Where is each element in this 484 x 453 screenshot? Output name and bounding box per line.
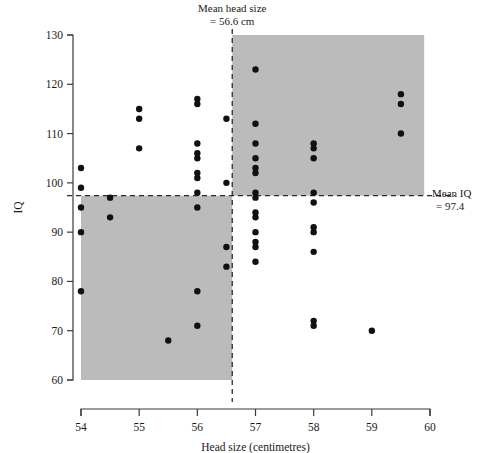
data-point bbox=[398, 130, 404, 136]
data-point bbox=[252, 66, 258, 72]
data-point bbox=[252, 121, 258, 127]
data-point bbox=[78, 165, 84, 171]
upper-right-quadrant bbox=[232, 35, 424, 196]
data-point bbox=[310, 155, 316, 161]
data-point bbox=[310, 229, 316, 235]
data-point bbox=[310, 323, 316, 329]
x-tick-label: 57 bbox=[250, 421, 262, 433]
data-point bbox=[369, 328, 375, 334]
mean-head-size-line1: Mean head size bbox=[198, 2, 267, 14]
data-point bbox=[223, 116, 229, 122]
data-point bbox=[310, 199, 316, 205]
y-tick-label: 130 bbox=[46, 29, 64, 41]
data-point bbox=[136, 106, 142, 112]
data-point bbox=[78, 229, 84, 235]
y-tick-label: 70 bbox=[52, 325, 64, 337]
data-point bbox=[194, 288, 200, 294]
data-point bbox=[136, 116, 142, 122]
data-point bbox=[223, 180, 229, 186]
data-point bbox=[398, 91, 404, 97]
y-tick-label: 60 bbox=[52, 374, 64, 386]
mean-iq-label: Mean IQ= 97.4 bbox=[432, 187, 471, 212]
data-point bbox=[223, 244, 229, 250]
data-point bbox=[194, 190, 200, 196]
y-tick-label: 100 bbox=[46, 177, 64, 189]
data-point bbox=[107, 194, 113, 200]
data-point bbox=[252, 214, 258, 220]
data-point bbox=[252, 244, 258, 250]
data-point bbox=[107, 214, 113, 220]
data-point bbox=[310, 145, 316, 151]
y-tick-label: 90 bbox=[52, 226, 64, 238]
data-point bbox=[252, 259, 258, 265]
data-point bbox=[252, 140, 258, 146]
data-point bbox=[398, 101, 404, 107]
x-tick-label: 60 bbox=[424, 421, 436, 433]
x-tick-label: 55 bbox=[133, 421, 145, 433]
data-point bbox=[252, 229, 258, 235]
mean-iq-line1: Mean IQ bbox=[432, 187, 471, 199]
data-point bbox=[252, 194, 258, 200]
data-point bbox=[194, 323, 200, 329]
mean-head-size-line2: = 56.6 cm bbox=[210, 15, 255, 27]
data-point bbox=[78, 204, 84, 210]
data-point bbox=[223, 263, 229, 269]
data-point bbox=[78, 288, 84, 294]
y-tick-label: 120 bbox=[46, 78, 64, 90]
y-axis-title: IQ bbox=[12, 201, 24, 214]
plot-canvas: 6070809010011012013054555657585960 IQHea… bbox=[0, 0, 484, 453]
x-axis-title: Head size (centimetres) bbox=[201, 441, 310, 453]
data-point bbox=[252, 170, 258, 176]
data-point bbox=[194, 101, 200, 107]
y-tick-label: 110 bbox=[46, 128, 63, 140]
x-tick-label: 56 bbox=[192, 421, 204, 433]
y-tick-label: 80 bbox=[52, 275, 64, 287]
mean-head-size-label: Mean head size= 56.6 cm bbox=[198, 2, 267, 27]
data-point bbox=[78, 185, 84, 191]
data-point bbox=[165, 337, 171, 343]
x-tick-label: 54 bbox=[75, 421, 87, 433]
data-point bbox=[194, 175, 200, 181]
lower-left-quadrant bbox=[81, 196, 232, 380]
data-point bbox=[252, 155, 258, 161]
x-tick-label: 58 bbox=[308, 421, 320, 433]
y-axis-line bbox=[67, 35, 73, 380]
mean-iq-line2: = 97.4 bbox=[436, 200, 465, 212]
data-point bbox=[136, 145, 142, 151]
data-point bbox=[194, 140, 200, 146]
scatter-plot-figure: 6070809010011012013054555657585960 IQHea… bbox=[0, 0, 484, 453]
data-point bbox=[310, 249, 316, 255]
data-point bbox=[310, 190, 316, 196]
x-tick-label: 59 bbox=[366, 421, 378, 433]
data-point bbox=[194, 204, 200, 210]
data-point bbox=[194, 155, 200, 161]
